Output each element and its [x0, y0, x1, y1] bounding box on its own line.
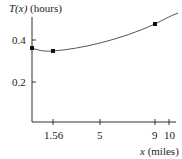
- x-axis-title: x (miles): [140, 145, 179, 157]
- point-x9: [153, 22, 157, 26]
- x-tick-label-5: 5: [97, 129, 103, 141]
- x-axis-title-unit: (miles): [145, 145, 179, 157]
- x-tick-label-1.56: 1.56: [44, 129, 63, 141]
- t-curve: [32, 13, 178, 51]
- y-axis-title-var: T(x): [9, 2, 27, 14]
- point-x1.56: [51, 49, 55, 53]
- point-x0: [30, 46, 34, 50]
- x-tick-label-9: 9: [152, 129, 158, 141]
- y-axis-title-unit: (hours): [27, 2, 62, 14]
- y-tick-label-0.2: 0.2: [12, 76, 26, 88]
- y-axis-title: T(x) (hours): [9, 2, 62, 14]
- x-tick-label-10: 10: [164, 129, 175, 141]
- y-tick-label-0.4: 0.4: [12, 34, 26, 46]
